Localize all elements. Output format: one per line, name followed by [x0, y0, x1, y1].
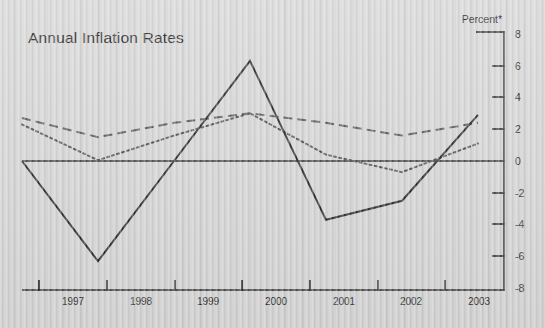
chart-title: Annual Inflation Rates	[28, 29, 184, 47]
y-tick-label-minus-2: -2	[515, 187, 524, 199]
axis-lines	[22, 31, 505, 291]
y-tick-label-0: 0	[515, 155, 521, 167]
x-tick-label-2002: 2002	[400, 296, 422, 307]
y-tick-label-2: 2	[515, 123, 521, 135]
y-tick-label-6: 6	[515, 60, 521, 72]
chart-screenshot: Annual Inflation Rates Percent* 8 6 4 2 …	[0, 0, 545, 328]
series-line-dotted	[22, 113, 478, 172]
y-axis-unit-label: Percent*	[462, 13, 502, 25]
y-tick-label-minus-4: -4	[515, 218, 524, 230]
chart-plot-area	[0, 0, 545, 328]
x-tick-label-2001: 2001	[333, 296, 355, 307]
y-tick-label-minus-8: -8	[515, 282, 524, 294]
x-tick-label-1999: 1999	[197, 296, 219, 307]
x-tick-label-2003: 2003	[468, 296, 490, 307]
x-tick-label-1997: 1997	[62, 296, 84, 307]
x-tick-label-2000: 2000	[265, 296, 287, 307]
y-tick-label-4: 4	[515, 91, 521, 103]
x-tick-label-1998: 1998	[130, 296, 152, 307]
y-tick-label-minus-6: -6	[515, 250, 524, 262]
y-tick-label-8: 8	[515, 28, 521, 40]
series-line-dashed	[22, 113, 478, 137]
